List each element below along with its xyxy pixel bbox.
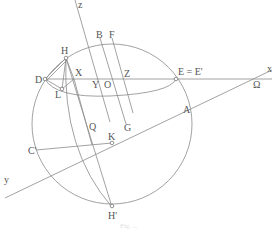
- label-X: X: [75, 68, 82, 78]
- label-Omega: Ω: [253, 80, 260, 90]
- diagram-canvas: [0, 0, 272, 231]
- label-G: G: [124, 123, 131, 133]
- y-axis: [5, 70, 272, 198]
- label-H: H: [61, 46, 68, 56]
- label-L: L: [55, 90, 61, 100]
- point-E: [174, 77, 178, 81]
- point-Hp: [110, 204, 114, 208]
- label-Y: Y: [92, 80, 99, 90]
- segment-LX: [62, 79, 74, 89]
- label-E: E = E': [178, 67, 203, 77]
- segment-DH2: [47, 60, 67, 80]
- point-H: [64, 56, 68, 60]
- label-K: K: [108, 132, 115, 142]
- label-D: D: [35, 75, 42, 85]
- segment-C-K: [36, 143, 112, 150]
- label-A: A: [183, 105, 190, 115]
- label-F: F: [109, 30, 115, 40]
- label-z: z: [78, 0, 82, 10]
- label-y: y: [4, 175, 9, 185]
- label-Q: Q: [89, 122, 96, 132]
- label-O: O: [104, 80, 111, 90]
- segment-X-down: [74, 79, 92, 145]
- segment-DH: [45, 58, 66, 79]
- label-Z: Z: [124, 69, 130, 79]
- label-C: C': [28, 146, 36, 156]
- figure-caption: Fig. ...: [120, 222, 138, 230]
- point-D: [43, 77, 47, 81]
- label-Hp: H': [108, 211, 117, 221]
- label-x: x: [267, 64, 272, 74]
- label-B: B: [96, 30, 103, 40]
